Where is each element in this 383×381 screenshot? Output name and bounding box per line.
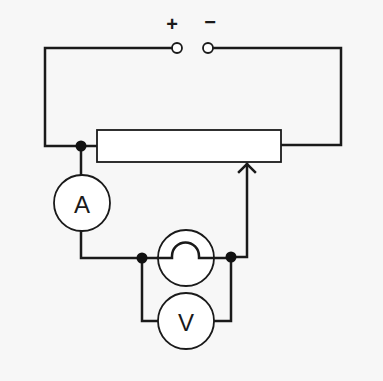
wire-voltmeter-left <box>142 258 158 321</box>
circuit-diagram: + − A V <box>0 0 383 381</box>
wire-ammeter-bottom <box>81 231 158 258</box>
junction-node <box>137 253 148 264</box>
positive-label: + <box>166 13 178 35</box>
negative-label: − <box>204 11 216 33</box>
ammeter-label: A <box>74 191 90 218</box>
positive-terminal <box>172 43 182 53</box>
junction-node <box>226 252 237 263</box>
slider-wire <box>231 164 247 257</box>
rheostat <box>97 130 281 162</box>
junction-node <box>76 141 87 152</box>
voltmeter-label: V <box>178 309 194 336</box>
negative-terminal <box>203 43 213 53</box>
wire-voltmeter-right <box>214 258 231 321</box>
